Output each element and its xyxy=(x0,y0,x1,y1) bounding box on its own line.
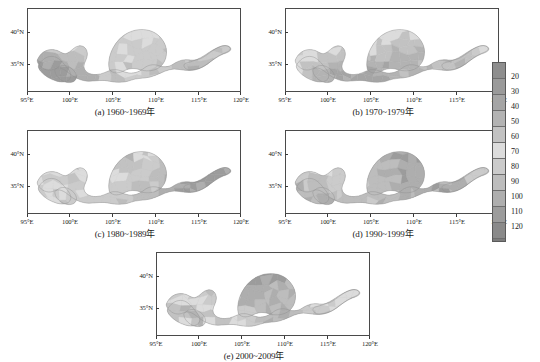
colorbar-band-15 xyxy=(493,63,505,79)
map-region-cell xyxy=(343,137,352,147)
map-region-cell xyxy=(183,143,194,154)
map-region-cell xyxy=(340,51,354,61)
map-region-cell xyxy=(254,255,262,262)
map-region-cell xyxy=(333,141,344,149)
map-region-cell xyxy=(82,22,95,33)
map-region-cell xyxy=(312,152,322,162)
map-region-cell xyxy=(208,197,217,207)
map-region-cell xyxy=(30,37,39,49)
map-region-cell xyxy=(51,160,62,170)
map-region-cell xyxy=(481,53,491,60)
map-region-cell xyxy=(447,204,457,212)
map-region-cell xyxy=(415,166,427,179)
map-region-cell xyxy=(467,203,473,213)
map-region-cell xyxy=(440,170,452,175)
map-region-cell xyxy=(304,83,313,91)
map-region-cell xyxy=(158,147,170,155)
map-region-cell xyxy=(126,143,133,152)
map-region-cell xyxy=(107,22,120,33)
map-region-cell xyxy=(291,14,306,25)
map-region-cell xyxy=(335,310,343,323)
map-region-cell xyxy=(327,273,338,286)
map-region-cell xyxy=(212,274,224,285)
map-region-cell xyxy=(390,204,398,213)
map-region-cell xyxy=(75,137,84,145)
map-region-cell xyxy=(301,277,314,286)
map-region-cell xyxy=(294,83,305,91)
map-region-cell xyxy=(302,131,311,140)
map-region-cell xyxy=(189,146,200,155)
map-region-cell xyxy=(458,30,468,38)
map-region-cell xyxy=(36,9,48,17)
map-region-cell xyxy=(198,277,208,285)
map-region-cell xyxy=(438,26,448,31)
map-region-cell xyxy=(338,323,346,329)
map-region-cell xyxy=(273,326,282,333)
map-region-cell xyxy=(472,68,483,75)
map-region-cell xyxy=(299,9,314,14)
map-region-cell xyxy=(464,74,475,85)
map-region-cell xyxy=(224,9,231,17)
map-region-cell xyxy=(41,44,55,53)
map-region-cell xyxy=(221,185,230,194)
colorbar-tick-70: 70 xyxy=(511,148,519,156)
map-region-cell xyxy=(349,161,360,166)
map-region-cell xyxy=(245,273,256,285)
map-region-cell xyxy=(349,203,362,213)
map-region-cell xyxy=(222,313,233,318)
map-region-cell xyxy=(455,74,465,86)
colorbar-tick-30: 30 xyxy=(511,88,519,96)
map-region-cell xyxy=(177,136,184,148)
map-region-cell xyxy=(368,140,378,145)
map-region-cell xyxy=(228,262,242,269)
map-region-cell xyxy=(358,82,369,91)
map-region-cell xyxy=(36,30,48,42)
map-region-cell xyxy=(28,69,38,79)
x-tick-mark-d-2 xyxy=(370,214,371,217)
map-region-cell xyxy=(52,131,62,138)
map-region-cell xyxy=(229,155,240,161)
map-region-cell xyxy=(52,16,62,25)
map-region-cell xyxy=(205,84,215,91)
map-region-cell xyxy=(69,137,75,149)
colorbar-band-85 xyxy=(493,175,505,191)
map-region-cell xyxy=(314,14,317,26)
map-region-cell xyxy=(443,16,451,27)
map-region-cell xyxy=(191,14,202,27)
map-region-cell xyxy=(367,37,378,45)
map-region-cell xyxy=(473,144,485,156)
map-region-cell xyxy=(36,155,47,162)
map-region-cell xyxy=(55,23,62,30)
map-region-cell xyxy=(225,138,230,146)
map-region-cell xyxy=(82,29,92,42)
map-region-cell xyxy=(156,83,170,89)
x-tick-mark-b-2 xyxy=(370,92,371,95)
map-region-cell xyxy=(310,41,320,48)
map-region-cell xyxy=(52,30,61,39)
map-region-cell xyxy=(213,131,227,139)
map-region-cell xyxy=(157,269,163,279)
map-region-cell xyxy=(374,145,384,156)
map-region-cell xyxy=(296,282,301,293)
map-region-cell xyxy=(349,38,362,47)
map-axes-e xyxy=(156,252,370,336)
map-region-cell xyxy=(196,326,207,334)
map-region-cell xyxy=(310,260,321,268)
map-region-cell xyxy=(288,319,297,327)
map-region-cell xyxy=(417,132,425,141)
x-tick-mark-e-5 xyxy=(369,336,370,339)
map-region-cell xyxy=(473,24,483,34)
map-region-cell xyxy=(62,144,71,154)
x-tick-mark-d-4 xyxy=(456,214,457,217)
map-region-cell xyxy=(413,9,427,15)
map-region-cell xyxy=(155,16,165,26)
map-region-cell xyxy=(69,158,79,171)
map-region-cell xyxy=(286,198,296,206)
map-region-cell xyxy=(197,22,205,32)
map-region-cell xyxy=(99,22,109,33)
map-region-cell xyxy=(148,147,159,156)
map-region-cell xyxy=(317,27,329,34)
map-region-cell xyxy=(66,86,77,91)
map-region-cell xyxy=(472,188,481,195)
map-region-cell xyxy=(332,21,343,33)
